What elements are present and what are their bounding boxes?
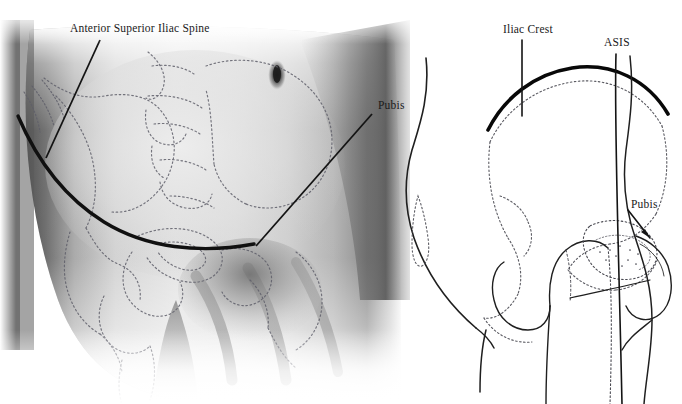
genital-contour-inner — [640, 244, 664, 276]
abdomen-illustration — [0, 0, 410, 404]
label-pubis-lateral: Pubis — [631, 198, 658, 210]
hip-joint-group — [492, 221, 657, 404]
femur-shaft-lateral — [608, 248, 611, 404]
lateral-body-contour — [624, 56, 652, 404]
femoral-neck-line — [566, 250, 571, 302]
asis-leader-line — [615, 54, 622, 404]
label-pubis-anterior: Pubis — [378, 99, 405, 111]
abdomen-contour — [406, 58, 476, 328]
acetabulum-inner-rim — [596, 235, 650, 270]
navel — [268, 60, 286, 90]
gluteal-crease — [622, 320, 652, 350]
anterior-abdomen-photograph — [0, 0, 410, 404]
greater-trochanter — [492, 262, 550, 330]
genital-contour — [626, 236, 671, 320]
iliac-crest-arc — [488, 67, 668, 130]
label-asis-abbreviation: ASIS — [604, 36, 630, 48]
anatomy-figure: Anterior Superior Iliac Spine Pubis Ilia… — [0, 0, 682, 404]
label-anterior-superior-iliac-spine: Anterior Superior Iliac Spine — [70, 22, 210, 34]
label-iliac-crest: Iliac Crest — [503, 23, 553, 35]
inguinal-line — [570, 280, 650, 298]
pelvis-dotted-outline — [484, 81, 667, 342]
thigh-contour-front — [480, 330, 486, 392]
